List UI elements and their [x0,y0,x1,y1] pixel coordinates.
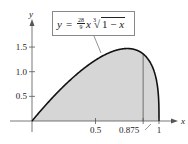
y-tick-label: 0.5 [16,91,28,101]
formula-pointer [94,36,101,53]
label-pointer-0875 [145,124,151,130]
x-tick-label: 1 [157,125,162,135]
root-index: 3 [93,17,96,23]
y-axis-label: y [28,9,33,19]
formula-lhs: y [57,18,62,30]
radicand: 1 − x [101,17,125,30]
formula-eq: = [66,18,72,30]
x-tick-label: 0.5 [90,125,102,135]
radicand-const: 1 − [102,18,119,30]
formula-label: y = 28 9 x 3√1 − x [52,11,135,36]
y-axis-arrow-icon [30,19,35,26]
coef-numerator: 28 [77,17,85,24]
y-tick-label: 1.5 [16,42,28,52]
coef-denominator: 9 [80,24,83,30]
radicand-var: x [119,18,124,30]
x-tick-label: 0.875 [119,125,140,135]
cube-root: 3√1 − x [91,18,125,30]
x-axis-label: x [180,116,185,126]
x-axis-arrow-icon [171,119,178,124]
y-tick-label: 1.0 [16,67,28,77]
formula-coefficient: 28 9 [77,17,85,30]
